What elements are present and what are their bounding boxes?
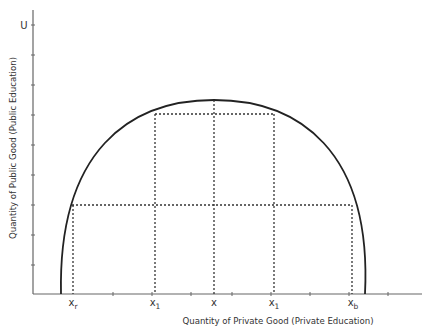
x-point-labels: xrx1xx1xb <box>68 297 358 311</box>
y-axis-title: Quantity of Public Good (Public Educatio… <box>8 57 18 239</box>
x-point-label-x1-left: x1 <box>150 297 161 311</box>
x-point-label-x1-right: x1 <box>269 297 280 311</box>
x-point-label-x: x <box>211 297 217 308</box>
ppf-curve <box>61 100 366 294</box>
y-axis-top-label: U <box>20 20 27 31</box>
x-point-label-xb: xb <box>348 297 359 311</box>
x-point-label-xr: xr <box>68 297 78 311</box>
ppf-diagram: U xrx1xx1xb Quantity of Private Good (Pr… <box>0 0 429 334</box>
x-axis-title: Quantity of Private Good (Private Educat… <box>182 316 373 326</box>
axes <box>31 10 422 296</box>
